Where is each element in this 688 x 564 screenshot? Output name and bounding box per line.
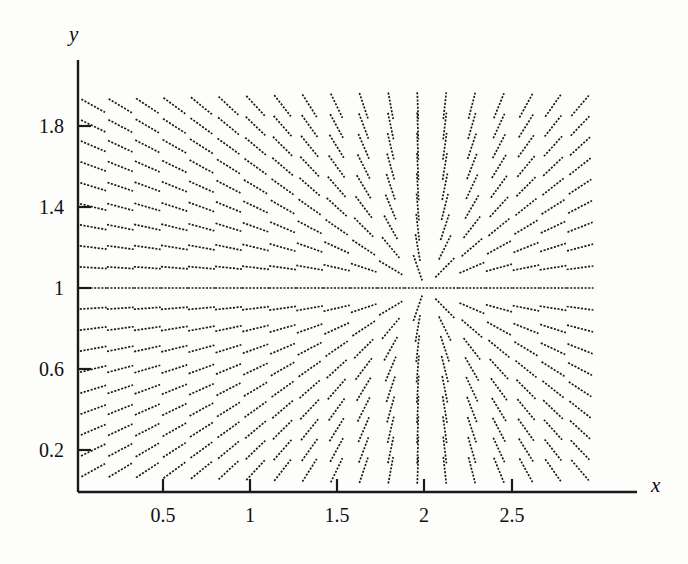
- slope-segment: [329, 156, 345, 178]
- slope-field-figure: x y 0.511.522.5 1.81.410.60.2: [0, 0, 688, 564]
- slope-segment: [242, 266, 269, 269]
- slope-segment: [274, 116, 292, 136]
- slope-segment: [188, 224, 214, 231]
- slope-segment: [81, 141, 106, 152]
- slope-segment: [435, 299, 454, 318]
- slope-segment: [567, 325, 593, 332]
- slope-segment: [327, 198, 347, 216]
- slope-segment: [297, 243, 322, 252]
- slope-segment: [328, 177, 346, 197]
- slope-segment: [464, 338, 481, 359]
- slope-segment: [216, 383, 240, 395]
- slope-segment: [162, 365, 188, 373]
- slope-segment: [542, 362, 565, 376]
- slope-segment: [108, 405, 133, 415]
- slope-segment: [386, 376, 395, 402]
- slope-segment: [545, 439, 562, 460]
- slope-segment: [242, 325, 268, 331]
- slope-segment: [81, 424, 106, 435]
- slope-segment: [494, 93, 504, 118]
- slope-segment: [518, 419, 534, 441]
- slope-segment: [163, 462, 185, 478]
- slope-segment: [272, 179, 294, 195]
- slope-segment: [330, 114, 343, 138]
- slope-segment: [299, 361, 321, 377]
- slope-segment: [415, 234, 420, 261]
- slope-segment: [298, 342, 322, 355]
- slope-segment: [302, 115, 318, 137]
- slope-segment: [354, 339, 373, 358]
- slope-segment: [571, 116, 590, 136]
- slope-segment: [161, 346, 187, 352]
- slope-segment: [161, 326, 188, 330]
- slope-segment: [356, 196, 372, 218]
- slope-segment: [569, 382, 592, 397]
- slope-segment: [190, 118, 212, 134]
- slope-segment: [108, 162, 133, 172]
- slope-segment: [569, 158, 590, 175]
- slope-segment: [134, 246, 161, 250]
- slope-segment: [302, 439, 318, 461]
- slope-segment: [567, 222, 592, 232]
- slope-segment: [415, 315, 420, 342]
- slope-segment: [81, 405, 106, 414]
- slope-segment: [443, 457, 446, 484]
- slope-segment: [246, 441, 266, 460]
- slope-segment: [189, 384, 214, 395]
- slope-segment: [302, 94, 316, 117]
- slope-segment: [219, 97, 239, 115]
- slope-segment: [215, 266, 242, 269]
- slope-segment: [388, 133, 394, 159]
- slope-segment: [162, 384, 187, 394]
- slope-segment: [443, 437, 446, 464]
- slope-segment: [80, 346, 107, 351]
- direction-field-segments: [80, 92, 594, 483]
- y-tick-label: 0.6: [0, 359, 64, 379]
- x-tick-label: 2.5: [482, 505, 542, 525]
- slope-segment: [324, 323, 349, 334]
- slope-segment: [459, 262, 484, 273]
- slope-segment: [487, 322, 511, 335]
- slope-segment: [135, 161, 160, 172]
- slope-segment: [492, 398, 506, 421]
- slope-segment: [569, 401, 590, 418]
- slope-segment: [246, 117, 266, 136]
- slope-segment: [388, 437, 394, 463]
- slope-segment: [299, 380, 319, 398]
- slope-segment: [107, 327, 134, 331]
- slope-segment: [492, 155, 506, 178]
- slope-segment: [162, 182, 187, 192]
- slope-segment: [215, 326, 241, 331]
- slope-segment: [514, 342, 537, 356]
- slope-segment: [190, 442, 212, 458]
- slope-segment: [107, 346, 133, 351]
- slope-segment: [80, 327, 107, 330]
- slope-segment: [242, 244, 268, 250]
- slope-segment: [189, 364, 214, 373]
- slope-segment: [443, 416, 447, 443]
- slope-segment: [271, 362, 294, 375]
- slope-segment: [270, 222, 295, 233]
- x-tick-label: 0.5: [133, 505, 193, 525]
- slope-segment: [107, 385, 133, 394]
- slope-segment: [161, 307, 188, 309]
- slope-segment: [273, 420, 292, 439]
- slope-segment: [352, 240, 375, 255]
- slope-segment: [442, 194, 448, 220]
- slope-segment: [244, 180, 267, 194]
- slope-segment: [326, 220, 348, 235]
- slope-segment: [435, 258, 454, 277]
- slope-segment: [80, 385, 106, 393]
- slope-segment: [80, 183, 106, 191]
- slope-segment: [302, 459, 316, 482]
- slope-segment: [245, 159, 267, 175]
- slope-segment: [567, 307, 594, 311]
- slope-segment: [541, 343, 565, 355]
- slope-segment: [245, 402, 267, 418]
- slope-segment: [570, 137, 590, 155]
- slope-segment: [134, 346, 160, 352]
- x-tick-label: 2: [394, 505, 454, 525]
- slope-segment: [515, 361, 536, 378]
- slope-segment: [80, 267, 107, 269]
- slope-segment: [468, 457, 475, 483]
